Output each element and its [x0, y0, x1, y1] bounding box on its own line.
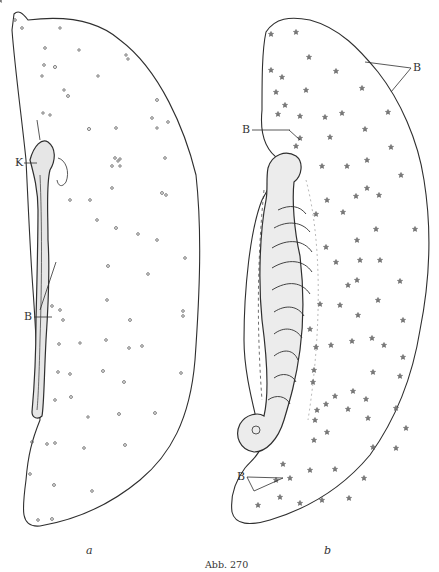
panel-letter-a: a	[86, 545, 93, 556]
figure-illustration	[0, 0, 439, 572]
figure-caption: Abb. 270	[205, 560, 248, 570]
panel-a-drawing	[12, 12, 200, 526]
panel-letter-b: b	[324, 545, 331, 556]
label-b-panel-b-notch: B	[242, 124, 250, 135]
label-k: K	[15, 157, 23, 168]
label-b-panel-b-lower: B	[237, 471, 245, 482]
label-b-panel-b-top-right: B	[413, 62, 421, 73]
label-b-panel-a: B	[24, 311, 32, 322]
panel-b-drawing	[232, 18, 429, 523]
panel-b-stipple	[0, 0, 418, 507]
